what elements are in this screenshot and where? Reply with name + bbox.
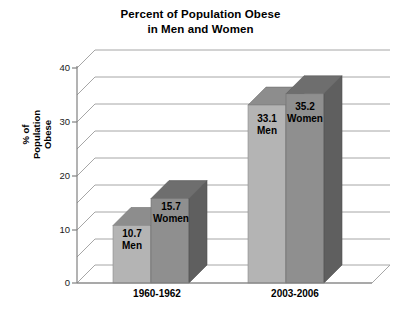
bar-2003-2006-women: [286, 76, 342, 283]
bar-1960-1962-women: [151, 181, 207, 283]
obesity-bar-chart: Percent of Population Obese in Men and W…: [0, 0, 401, 316]
plot-area: [0, 0, 401, 316]
x-category-label-2: 2003-2006: [235, 288, 355, 299]
y-axis: [72, 66, 77, 283]
x-category-label-1: 1960-1962: [97, 288, 217, 299]
